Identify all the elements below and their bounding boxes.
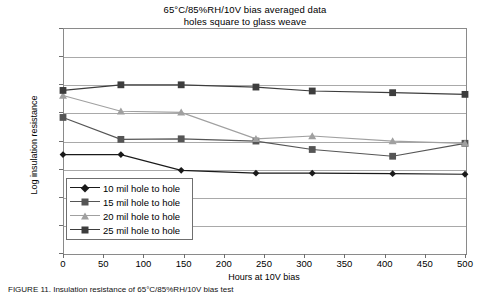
chart-figure: 65°C/85%RH/10V bias averaged data holes …: [0, 0, 490, 294]
x-tick-label: 400: [365, 259, 405, 269]
data-point-marker: [178, 81, 185, 88]
x-tick-label: 300: [284, 259, 324, 269]
data-point-marker: [60, 114, 67, 121]
series-line: [63, 155, 465, 175]
data-point-marker: [60, 87, 67, 94]
legend-item-1[interactable]: 10 mil hole to hole: [67, 181, 192, 195]
x-axis-title: Hours at 10V bias: [63, 272, 465, 282]
data-point-marker: [178, 135, 185, 142]
x-tick-label: 450: [405, 259, 445, 269]
legend-marker-square-icon: [70, 195, 100, 209]
x-tick-label: 200: [204, 259, 244, 269]
chart-title-line2: holes square to glass weave: [0, 16, 490, 28]
legend-diamond-icon: [81, 184, 89, 192]
data-point-marker: [389, 89, 396, 96]
x-tick-label: 150: [164, 259, 204, 269]
chart-legend: 10 mil hole to hole15 mil hole to hole20…: [66, 178, 193, 240]
data-point-marker: [117, 136, 124, 143]
legend-item-2[interactable]: 15 mil hole to hole: [67, 195, 192, 209]
chart-title: 65°C/85%RH/10V bias averaged data holes …: [0, 4, 490, 28]
x-tick-label: 0: [43, 259, 83, 269]
legend-square-icon: [82, 199, 89, 206]
legend-label: 20 mil hole to hole: [100, 211, 180, 222]
chart-title-line1: 65°C/85%RH/10V bias averaged data: [164, 4, 327, 15]
legend-label: 10 mil hole to hole: [100, 183, 180, 194]
data-point-marker: [117, 81, 124, 88]
data-point-marker: [389, 170, 396, 177]
x-tick-label: 500: [445, 259, 485, 269]
legend-label: 25 mil hole to hole: [100, 225, 180, 236]
x-tick-label: 100: [123, 259, 163, 269]
x-tick-label: 250: [244, 259, 284, 269]
legend-item-4[interactable]: 25 mil hole to hole: [67, 223, 192, 237]
data-point-marker: [117, 151, 124, 158]
x-tick-label: 50: [83, 259, 123, 269]
data-point-marker: [462, 171, 469, 178]
data-point-marker: [60, 151, 67, 158]
data-point-marker: [253, 170, 260, 177]
series-4: [60, 81, 469, 97]
legend-item-3[interactable]: 20 mil hole to hole: [67, 209, 192, 223]
data-point-marker: [309, 146, 316, 153]
figure-caption: FIGURE 11. Insulation resistance of 65°C…: [8, 285, 468, 294]
data-point-marker: [462, 91, 469, 98]
data-point-marker: [178, 167, 185, 174]
legend-marker-triangle-icon: [70, 209, 100, 223]
y-axis-title: Log insulation resistance: [29, 55, 39, 235]
legend-marker-diamond-icon: [70, 181, 100, 195]
data-point-marker: [309, 88, 316, 95]
x-tick-label: 350: [324, 259, 364, 269]
series-1: [60, 151, 469, 177]
legend-marker-square-icon: [70, 223, 100, 237]
data-point-marker: [389, 153, 396, 160]
data-point-marker: [309, 170, 316, 177]
legend-triangle-icon: [81, 213, 89, 220]
legend-label: 15 mil hole to hole: [100, 197, 180, 208]
legend-square-icon: [82, 227, 89, 234]
data-point-marker: [253, 84, 260, 91]
